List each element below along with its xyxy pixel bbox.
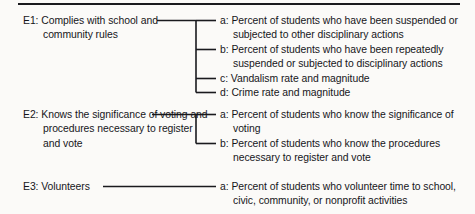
measure-item: d: Crime rate and magnitude: [220, 86, 470, 100]
measure-item: a: Percent of students who know the sign…: [220, 108, 470, 137]
bracket-diagram: E1: Complies with school and community r…: [0, 0, 475, 214]
indicator-label-e2: E2: Knows the significance of voting and…: [23, 108, 208, 151]
measure-item: c: Vandalism rate and magnitude: [220, 72, 470, 86]
top-horizontal-rule: [18, 3, 460, 5]
measure-list-e3: a: Percent of students who volunteer tim…: [220, 180, 470, 209]
measure-item: b: Percent of students who know the proc…: [220, 137, 470, 166]
measure-list-e2: a: Percent of students who know the sign…: [220, 108, 470, 166]
measure-item: a: Percent of students who volunteer tim…: [220, 180, 470, 209]
measure-item: b: Percent of students who have been rep…: [220, 43, 470, 72]
indicator-label-e3: E3: Volunteers: [23, 180, 208, 194]
measure-list-e1: a: Percent of students who have been sus…: [220, 14, 470, 100]
measure-item: a: Percent of students who have been sus…: [220, 14, 470, 43]
indicator-label-e1: E1: Complies with school and community r…: [23, 14, 208, 43]
